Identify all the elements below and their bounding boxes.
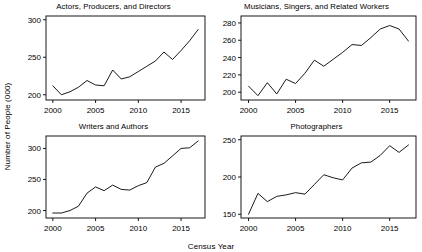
x-tick-label: 2010 — [129, 106, 147, 115]
x-tick-label: 2015 — [172, 106, 190, 115]
plot-area: 2002503002000200520102015 — [16, 132, 211, 240]
x-tick-label: 2005 — [287, 106, 305, 115]
y-tick-label: 250 — [28, 175, 42, 184]
data-series-line — [53, 141, 198, 213]
plot-svg: 2002202402602802000200520102015 — [211, 12, 422, 122]
y-tick-label: 300 — [28, 144, 42, 153]
panel-writers-and-authors: Writers and Authors 20025030020002005201… — [16, 122, 211, 240]
y-tick-label: 250 — [28, 53, 42, 62]
panel-photographers: Photographers 1502002502000200520102015 — [211, 122, 422, 240]
y-tick-label: 250 — [223, 136, 237, 145]
plot-area: 2002503002000200520102015 — [16, 12, 211, 122]
x-tick-label: 2010 — [129, 224, 147, 233]
figure-canvas: Number of People (000) Actors, Producers… — [0, 0, 422, 252]
data-series-line — [53, 30, 198, 95]
y-tick-label: 240 — [223, 54, 237, 63]
plot-area: 2002202402602802000200520102015 — [211, 12, 422, 122]
y-axis-label: Number of People (000) — [0, 0, 16, 252]
x-tick-label: 2005 — [87, 224, 105, 233]
panel-title: Actors, Producers, and Directors — [16, 2, 211, 12]
y-tick-label: 150 — [223, 210, 237, 219]
plot-frame — [46, 16, 205, 100]
panel-musicians-singers-related-workers: Musicians, Singers, and Related Workers … — [211, 2, 422, 122]
x-tick-label: 2015 — [172, 224, 190, 233]
x-tick-label: 2000 — [240, 224, 258, 233]
y-tick-label: 200 — [28, 207, 42, 216]
panel-actors-producers-directors: Actors, Producers, and Directors 2002503… — [16, 2, 211, 122]
x-tick-label: 2005 — [87, 106, 105, 115]
plot-frame — [241, 136, 416, 218]
y-axis-label-text: Number of People (000) — [4, 82, 13, 170]
y-tick-label: 200 — [28, 91, 42, 100]
panel-title: Writers and Authors — [16, 122, 211, 132]
panel-title: Photographers — [211, 122, 422, 132]
x-tick-label: 2000 — [44, 224, 62, 233]
panel-title: Musicians, Singers, and Related Workers — [211, 2, 422, 12]
plot-svg: 1502002502000200520102015 — [211, 132, 422, 240]
x-tick-label: 2000 — [44, 106, 62, 115]
data-series-line — [249, 145, 409, 214]
x-tick-label: 2015 — [381, 224, 399, 233]
y-tick-label: 200 — [223, 173, 237, 182]
x-tick-label: 2005 — [287, 224, 305, 233]
data-series-line — [249, 26, 409, 96]
y-tick-label: 220 — [223, 71, 237, 80]
y-tick-label: 260 — [223, 36, 237, 45]
y-tick-label: 300 — [28, 16, 42, 25]
x-axis-label-text: Census Year — [188, 242, 234, 251]
x-tick-label: 2000 — [240, 106, 258, 115]
y-tick-label: 200 — [223, 88, 237, 97]
y-tick-label: 280 — [223, 19, 237, 28]
plot-svg: 2002503002000200520102015 — [16, 132, 211, 240]
plot-frame — [241, 16, 416, 100]
plot-svg: 2002503002000200520102015 — [16, 12, 211, 122]
x-axis-label: Census Year — [0, 242, 422, 251]
plot-area: 1502002502000200520102015 — [211, 132, 422, 240]
x-tick-label: 2010 — [334, 224, 352, 233]
x-tick-label: 2015 — [381, 106, 399, 115]
x-tick-label: 2010 — [334, 106, 352, 115]
